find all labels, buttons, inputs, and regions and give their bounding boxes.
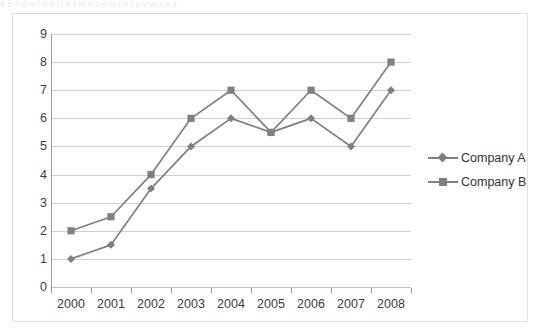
- y-tick-label-2: 2: [21, 225, 47, 237]
- x-tick-0: [51, 288, 52, 293]
- series-company-a: [67, 86, 395, 263]
- y-tick-label-6: 6: [21, 112, 47, 124]
- marker-square: [187, 115, 194, 122]
- x-axis-ticks: [51, 288, 412, 294]
- chart-frame: 0123456789 20002001200220032004200520062…: [12, 13, 528, 322]
- legend-item-company-a[interactable]: Company A: [428, 146, 526, 170]
- x-tick-1: [91, 288, 92, 293]
- y-tick-label-5: 5: [21, 140, 47, 152]
- x-tick-label-2005: 2005: [257, 297, 285, 311]
- x-tick-4: [211, 288, 212, 293]
- legend-item-company-b[interactable]: Company B: [428, 170, 526, 194]
- x-tick-6: [291, 288, 292, 293]
- x-tick-label-2002: 2002: [137, 297, 165, 311]
- legend-marker-diamond-icon: [438, 153, 448, 163]
- series-plot: [51, 34, 411, 287]
- x-tick-label-2006: 2006: [297, 297, 325, 311]
- x-tick-5: [251, 288, 252, 293]
- clipped-text-sliver: a b c d e f g h i j k l m n o p q r s t …: [0, 0, 547, 8]
- x-axis-tick-labels: 200020012002200320042005200620072008: [51, 297, 411, 315]
- y-tick-label-3: 3: [21, 197, 47, 209]
- y-axis-tick-labels: 0123456789: [19, 34, 47, 287]
- y-tick-label-4: 4: [21, 169, 47, 181]
- legend-swatch-square-icon: [428, 175, 458, 189]
- x-tick-label-2004: 2004: [217, 297, 245, 311]
- legend-swatch-diamond-icon: [428, 151, 458, 165]
- marker-square: [307, 87, 314, 94]
- x-tick-3: [171, 288, 172, 293]
- x-tick-label-2007: 2007: [337, 297, 365, 311]
- legend-label: Company B: [458, 175, 526, 189]
- x-tick-7: [331, 288, 332, 293]
- marker-square: [267, 129, 274, 136]
- x-tick-2: [131, 288, 132, 293]
- marker-square: [347, 115, 354, 122]
- x-tick-8: [371, 288, 372, 293]
- marker-square: [227, 87, 234, 94]
- marker-square: [387, 59, 394, 66]
- x-tick-label-2003: 2003: [177, 297, 205, 311]
- marker-diamond: [67, 255, 75, 263]
- marker-square: [147, 171, 154, 178]
- y-tick-label-9: 9: [21, 28, 47, 40]
- marker-square: [107, 213, 114, 220]
- x-tick-label-2001: 2001: [97, 297, 125, 311]
- x-tick-label-2000: 2000: [57, 297, 85, 311]
- x-tick-label-2008: 2008: [377, 297, 405, 311]
- legend-label: Company A: [458, 151, 526, 165]
- series-company-b: [67, 59, 394, 235]
- x-tick-9: [411, 288, 412, 293]
- marker-square: [67, 227, 74, 234]
- y-tick-label-0: 0: [21, 281, 47, 293]
- y-tick-label-8: 8: [21, 56, 47, 68]
- chart-legend: Company ACompany B: [428, 146, 526, 194]
- y-tick-label-7: 7: [21, 84, 47, 96]
- legend-marker-square-icon: [439, 178, 447, 186]
- y-tick-label-1: 1: [21, 253, 47, 265]
